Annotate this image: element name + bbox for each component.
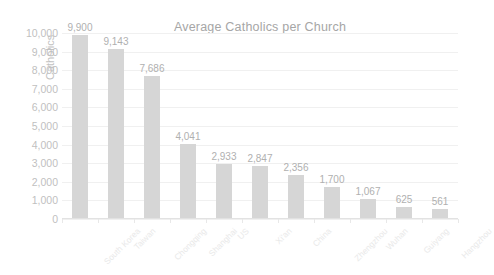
bar-value-label: 2,356 [283, 162, 308, 173]
y-axis-tick-labels: 10,0009,0008,0007,0006,0005,0004,0003,00… [0, 33, 58, 219]
chart-title: Average Catholics per Church [150, 20, 370, 34]
x-axis-tick-marks [62, 219, 458, 224]
bar-value-label: 561 [432, 196, 449, 207]
y-axis-tick-label: 7,000 [2, 83, 58, 95]
x-axis-category-label: Shanghai [206, 226, 238, 258]
x-axis-category-label: US [235, 226, 250, 241]
x-axis-category-label: China [310, 226, 333, 249]
x-axis-tick-mark [134, 219, 135, 223]
x-axis-tick-mark [242, 219, 243, 223]
y-axis-tick-label: 6,000 [2, 101, 58, 113]
x-axis-tick-mark [350, 219, 351, 223]
bar-slot[interactable]: 625 [396, 33, 413, 219]
bar[interactable] [324, 187, 341, 219]
bar-value-label: 2,933 [211, 151, 236, 162]
x-axis-tick-mark [206, 219, 207, 223]
x-axis-tick-mark [314, 219, 315, 223]
bar-slot[interactable]: 561 [432, 33, 449, 219]
bar-value-label: 4,041 [175, 131, 200, 142]
bar-slot[interactable]: 9,900 [72, 33, 89, 219]
bar[interactable] [144, 76, 161, 219]
x-axis-category-label: Chongqing [172, 226, 208, 262]
x-axis-tick-mark [278, 219, 279, 223]
bar-slot[interactable]: 2,356 [288, 33, 305, 219]
bar-slot[interactable]: 9,143 [108, 33, 125, 219]
x-axis-tick-mark [170, 219, 171, 223]
y-axis-tick-label: 10,000 [2, 27, 58, 39]
y-axis-tick-label: 5,000 [2, 120, 58, 132]
bar[interactable] [288, 175, 305, 219]
plot-area: 9,9009,1437,6864,0412,9332,8472,3561,700… [62, 33, 458, 219]
x-axis-category-label: Hangzhou [459, 226, 493, 260]
bar-slot[interactable]: 1,067 [360, 33, 377, 219]
bar-value-label: 1,700 [319, 174, 344, 185]
x-axis-tick-mark [458, 219, 459, 223]
bar-value-label: 9,143 [103, 36, 128, 47]
bar[interactable] [72, 35, 89, 219]
x-axis-tick-mark [98, 219, 99, 223]
x-axis-category-label: Xi'an [273, 226, 293, 246]
bar[interactable] [252, 166, 269, 219]
bar[interactable] [108, 49, 125, 219]
bar-slot[interactable]: 2,847 [252, 33, 269, 219]
bar-slot[interactable]: 7,686 [144, 33, 161, 219]
bar[interactable] [180, 144, 197, 219]
y-axis-tick-label: 8,000 [2, 64, 58, 76]
x-axis-tick-mark [386, 219, 387, 223]
bar-value-label: 625 [396, 194, 413, 205]
bar-slot[interactable]: 1,700 [324, 33, 341, 219]
y-axis-tick-label: 1,000 [2, 194, 58, 206]
y-axis-tick-label: 3,000 [2, 157, 58, 169]
bar-value-label: 1,067 [355, 186, 380, 197]
y-axis-tick-label: 4,000 [2, 139, 58, 151]
bar-slot[interactable]: 4,041 [180, 33, 197, 219]
x-axis-category-label: Guiyang [421, 226, 450, 255]
x-axis-tick-mark [422, 219, 423, 223]
bar-slot[interactable]: 2,933 [216, 33, 233, 219]
x-axis-category-labels: South KoreaTaiwanChongqingShanghaiUSXi'a… [62, 226, 458, 275]
y-axis-tick-label: 0 [2, 213, 58, 225]
bar-value-label: 9,900 [67, 22, 92, 33]
bar[interactable] [216, 164, 233, 219]
bar-value-label: 2,847 [247, 153, 272, 164]
x-axis-tick-mark [62, 219, 63, 223]
y-axis-tick-label: 2,000 [2, 176, 58, 188]
y-axis-tick-label: 9,000 [2, 46, 58, 58]
bar-value-label: 7,686 [139, 63, 164, 74]
bar[interactable] [360, 199, 377, 219]
